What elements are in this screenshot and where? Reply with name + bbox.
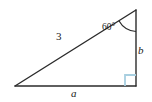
side-b-label: b xyxy=(138,45,144,56)
angle-arc xyxy=(119,21,136,32)
angle-measure-label: 60° xyxy=(102,23,115,33)
side-a-label: a xyxy=(71,88,77,99)
hypotenuse-line xyxy=(15,10,136,86)
right-triangle-diagram: 3 a b 60° xyxy=(0,0,152,102)
right-angle-marker-icon xyxy=(125,75,136,86)
hypotenuse-label: 3 xyxy=(56,31,62,42)
